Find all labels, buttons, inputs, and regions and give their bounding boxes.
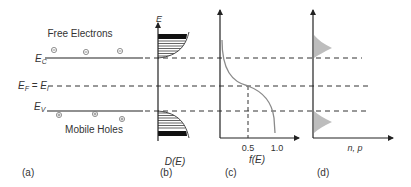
- energy-reference-lines: [48, 58, 368, 111]
- panel-b: E D(E) (b): [156, 14, 190, 178]
- fermi-axis-label: f(E): [249, 154, 265, 165]
- holes: [56, 111, 124, 121]
- valence-band-states: [158, 113, 190, 136]
- caption-c: (c): [225, 167, 237, 178]
- ec-label: EC: [35, 53, 48, 65]
- conduction-band-states: [158, 34, 190, 56]
- ev-label: EV: [34, 101, 47, 113]
- electrons: [51, 47, 122, 54]
- tick-1-0: 1.0: [271, 143, 284, 153]
- caption-a: (a): [22, 167, 34, 178]
- caption-d: (d): [317, 167, 329, 178]
- mobile-holes-label: Mobile Holes: [65, 124, 123, 135]
- panel-a: Free Electrons EC EF = Ei EV Mobile Hole…: [18, 28, 143, 178]
- free-electrons-label: Free Electrons: [47, 28, 112, 39]
- electron-distribution: [314, 35, 332, 58]
- panel-d: n, p (d): [313, 10, 393, 178]
- panel-c: 0.5 1.0 f(E) (c): [220, 10, 299, 178]
- ef-ei-label: EF = Ei: [18, 80, 49, 92]
- tick-0-5: 0.5: [242, 143, 255, 153]
- dos-axis-label: D(E): [165, 156, 186, 167]
- energy-axis-label: E: [156, 14, 163, 24]
- semiconductor-band-diagram: Free Electrons EC EF = Ei EV Mobile Hole…: [0, 0, 411, 187]
- caption-b: (b): [160, 167, 172, 178]
- carrier-axis-label: n, p: [347, 143, 362, 153]
- hole-distribution: [314, 111, 332, 133]
